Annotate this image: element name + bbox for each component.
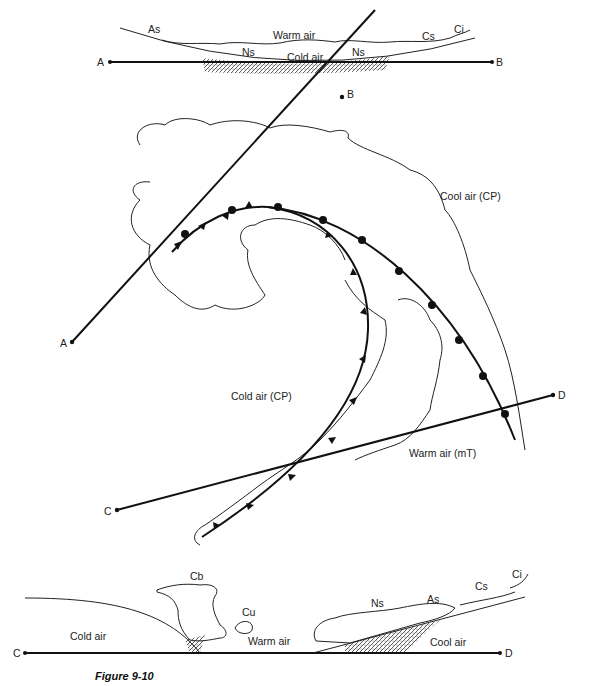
- label-ns-bottom: Ns: [371, 597, 384, 609]
- cumulonimbus-outline: [157, 584, 226, 641]
- label-warm-air-bottom: Warm air: [248, 635, 291, 647]
- point-a-marker: [108, 60, 112, 64]
- cold-front-surface: [25, 598, 200, 653]
- point-d-marker: [498, 651, 502, 655]
- label-cool-air-cp: Cool air (CP): [440, 190, 501, 202]
- label-cb: Cb: [190, 570, 204, 582]
- bottom-cross-section: C D Cold air Warm air Cool air Cb Cu Ns …: [13, 568, 528, 659]
- label-ns-right: Ns: [352, 46, 365, 58]
- label-warm-air-mt: Warm air (mT): [409, 447, 476, 459]
- map-point-b: [340, 95, 344, 99]
- label-c: C: [13, 647, 21, 659]
- warm-front: [268, 207, 515, 440]
- label-cool-air-bottom: Cool air: [430, 636, 467, 648]
- label-cold-air: Cold air: [287, 51, 324, 63]
- label-a: A: [97, 56, 104, 68]
- cold-front-triangles: [174, 201, 367, 529]
- map-label-c: C: [104, 505, 112, 517]
- label-cs: Cs: [422, 30, 435, 42]
- label-warm-air: Warm air: [273, 29, 316, 41]
- warm-front-surface: [313, 597, 525, 653]
- cumulus-outline: [235, 621, 252, 633]
- cd-section-line: [117, 395, 553, 510]
- cloud-shield-outline: [137, 119, 525, 450]
- map-label-a: A: [60, 337, 67, 349]
- map-point-d: [551, 393, 555, 397]
- cloud-outline-warm-sector: [195, 280, 387, 545]
- top-cross-section: A B As Warm air Ns Ns Cs Ci Cold air: [97, 23, 503, 74]
- point-b-marker: [490, 60, 494, 64]
- label-ci: Ci: [454, 23, 464, 35]
- label-as: As: [148, 23, 160, 35]
- map-label-b: B: [347, 88, 354, 100]
- map-point-c: [115, 508, 119, 512]
- ab-section-line: [72, 10, 375, 342]
- map-point-a: [70, 340, 74, 344]
- map-view: A B C D: [60, 10, 566, 545]
- point-c-marker: [23, 651, 27, 655]
- label-cold-air-bottom: Cold air: [70, 630, 107, 642]
- label-cold-air-cp: Cold air (CP): [231, 390, 292, 402]
- label-ci-bottom: Ci: [512, 568, 522, 580]
- label-b: B: [496, 56, 503, 68]
- label-as-bottom: As: [427, 593, 439, 605]
- cloud-outline-inner: [131, 182, 345, 309]
- map-label-d: D: [558, 389, 566, 401]
- label-d: D: [505, 647, 513, 659]
- label-cu: Cu: [242, 606, 256, 618]
- figure-caption: Figure 9-10: [95, 670, 155, 682]
- label-cs-bottom: Cs: [475, 580, 488, 592]
- warm-front-precipitation: [345, 620, 440, 653]
- label-ns-left: Ns: [242, 46, 255, 58]
- occluded-front: [172, 207, 268, 252]
